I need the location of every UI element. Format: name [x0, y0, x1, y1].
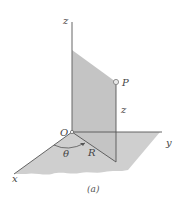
height-z-label: z — [120, 104, 127, 115]
point-p-icon — [113, 79, 118, 84]
x-axis-label: x — [12, 173, 18, 184]
z-axis-label: z — [62, 15, 69, 26]
theta-label: θ — [63, 148, 69, 159]
radius-label: R — [87, 147, 96, 158]
figure-caption: (a) — [87, 184, 100, 194]
cylindrical-coordinates-diagram: z P z O y θ R x (a) — [0, 0, 186, 204]
point-p-label: P — [121, 77, 129, 88]
origin-point-icon — [70, 130, 73, 133]
y-axis-label: y — [165, 137, 172, 148]
origin-label: O — [60, 127, 68, 138]
